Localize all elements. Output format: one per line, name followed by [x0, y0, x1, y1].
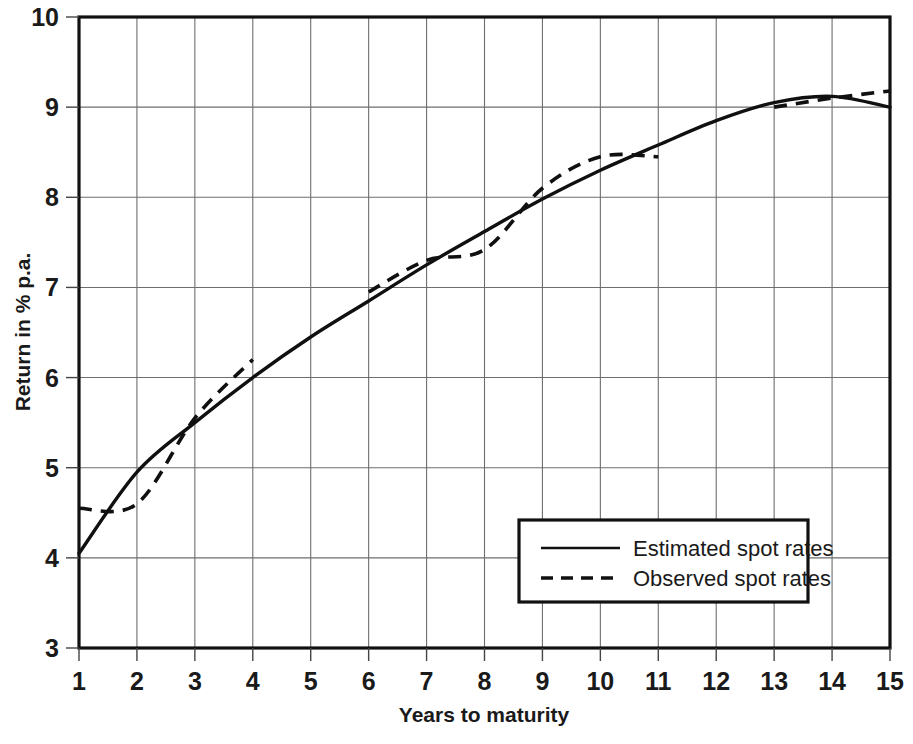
- y-tick-label-4: 4: [45, 544, 59, 572]
- x-axis-title: Years to maturity: [399, 703, 570, 726]
- x-tick-label-13: 13: [760, 667, 788, 695]
- y-tick-label-9: 9: [45, 93, 59, 121]
- x-tick-label-7: 7: [420, 667, 434, 695]
- x-tick-label-14: 14: [818, 667, 846, 695]
- y-axis-title: Return in % p.a.: [11, 253, 34, 412]
- x-tick-label-1: 1: [72, 667, 86, 695]
- chart-legend[interactable]: Estimated spot rates Observed spot rates: [519, 520, 834, 602]
- x-tick-label-11: 11: [645, 667, 672, 695]
- x-axis-ticks: 123456789101112131415: [72, 648, 904, 695]
- x-tick-label-2: 2: [130, 667, 144, 695]
- y-tick-label-8: 8: [45, 183, 59, 211]
- x-tick-label-4: 4: [246, 667, 260, 695]
- legend-label-observed: Observed spot rates: [633, 566, 831, 591]
- series-observed-spot-rates-segment-0: [79, 360, 253, 512]
- y-tick-label-3: 3: [45, 634, 59, 662]
- x-tick-label-3: 3: [188, 667, 202, 695]
- spot-rate-line-chart: 345678910 123456789101112131415 Return i…: [0, 0, 913, 744]
- x-tick-label-10: 10: [586, 667, 614, 695]
- y-tick-label-5: 5: [45, 454, 59, 482]
- y-axis-ticks: 345678910: [31, 3, 79, 662]
- y-tick-label-7: 7: [45, 273, 59, 301]
- legend-label-estimated: Estimated spot rates: [633, 536, 834, 561]
- y-tick-label-6: 6: [45, 364, 59, 392]
- x-tick-label-15: 15: [876, 667, 904, 695]
- y-tick-label-10: 10: [31, 3, 59, 31]
- x-tick-label-6: 6: [362, 667, 376, 695]
- x-tick-label-5: 5: [304, 667, 318, 695]
- chart-container: 345678910 123456789101112131415 Return i…: [0, 0, 913, 744]
- x-tick-label-8: 8: [478, 667, 492, 695]
- x-tick-label-9: 9: [535, 667, 549, 695]
- series-observed-spot-rates-segment-1: [369, 154, 659, 292]
- x-tick-label-12: 12: [702, 667, 730, 695]
